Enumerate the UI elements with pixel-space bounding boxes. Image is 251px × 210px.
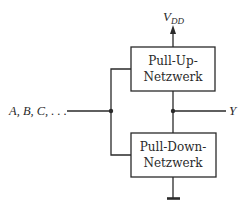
pull-up-label-line2: Netzwerk xyxy=(143,70,203,84)
output-label: Y xyxy=(229,103,238,118)
pull-down-label-line1: Pull-Down- xyxy=(140,140,206,154)
pull-down-network: Pull-Down- Netzwerk xyxy=(131,133,216,177)
ground-icon xyxy=(167,177,180,199)
pull-up-label-line1: Pull-Up- xyxy=(148,54,197,68)
output-junction-dot xyxy=(171,109,175,113)
input-bus-wire xyxy=(111,69,131,155)
input-junction-dot xyxy=(109,109,113,113)
pull-up-network: Pull-Up- Netzwerk xyxy=(131,47,215,91)
vdd-label: VDD xyxy=(163,9,184,26)
vdd-arrow-icon xyxy=(170,25,176,47)
input-label: A, B, C, . . . xyxy=(8,104,67,118)
cmos-gate-diagram: VDD Pull-Up- Netzwerk Y A, B, C, . . . P… xyxy=(0,0,251,210)
pull-down-label-line2: Netzwerk xyxy=(143,156,203,170)
